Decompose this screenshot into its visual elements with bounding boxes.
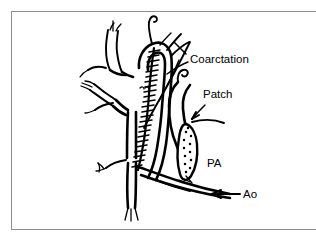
patch-graft — [178, 124, 198, 180]
label-pa: PA — [207, 157, 222, 169]
patch-leader-arrow — [192, 105, 205, 119]
label-patch: Patch — [203, 88, 232, 100]
left-branch-junction — [80, 67, 133, 77]
suture-tail — [149, 16, 157, 44]
label-coarctation: Coarctation — [190, 53, 249, 65]
distal-left-vessel — [125, 163, 138, 221]
subclavian-artery — [106, 21, 122, 72]
medical-illustration: Aortic coarctation repair with patch — [0, 0, 316, 245]
descending-left-trunk — [127, 112, 136, 158]
lower-left-branch — [96, 160, 126, 172]
figure-root: Aortic coarctation repair with patch — [0, 0, 316, 245]
label-ao: Ao — [243, 188, 257, 200]
carotid-artery — [81, 81, 116, 106]
